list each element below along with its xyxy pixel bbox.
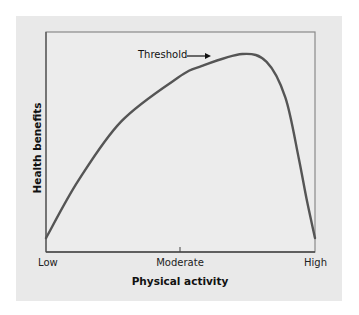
x-tick-label-high: High (304, 257, 327, 268)
x-tick-label-moderate: Moderate (156, 257, 204, 268)
threshold-annotation: Threshold (138, 49, 187, 60)
figure: Threshold Health benefits Low Moderate H… (0, 0, 359, 315)
x-axis-label: Physical activity (132, 275, 229, 287)
x-tick-label-low: Low (38, 257, 58, 268)
plot-frame (46, 32, 315, 252)
y-axis-label: Health benefits (31, 102, 43, 193)
